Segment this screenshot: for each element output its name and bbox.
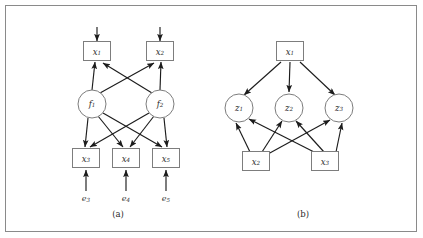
edge-f1-x1: [92, 62, 95, 90]
edge-f2-x5: [164, 118, 167, 147]
error-label-e4: e4: [122, 194, 131, 204]
edge-x3-z1: [249, 119, 318, 154]
edge-x1-z1: [244, 62, 281, 95]
edge-f2-x2: [160, 62, 161, 90]
error-label-e5: e5: [162, 194, 171, 204]
edge-f1-x5: [103, 113, 162, 147]
figure-root: x1 x2 f1 f2 x3 x4 x5 e3 e4 e5 (a): [0, 0, 423, 238]
edge-x2-z1: [236, 123, 250, 152]
panel-b: x1 z1 z2 z3 x2 x3 (b): [225, 42, 353, 219]
panel-b-caption: (b): [297, 209, 309, 219]
edge-x1-z2: [289, 62, 290, 92]
panel-a: x1 x2 f1 f2 x3 x4 x5 e3 e4 e5 (a): [73, 27, 180, 219]
edge-f2-x4: [130, 116, 154, 147]
edge-f2-x1: [103, 63, 152, 93]
edge-f1-x3: [85, 118, 88, 147]
error-label-e3: e3: [82, 194, 91, 204]
panel-a-caption: (a): [112, 209, 124, 219]
edge-x3-z3: [336, 123, 342, 152]
causal-diagram: x1 x2 f1 f2 x3 x4 x5 e3 e4 e5 (a): [0, 0, 423, 238]
edge-x1-z3: [300, 62, 335, 95]
edge-f1-x4: [98, 116, 123, 147]
